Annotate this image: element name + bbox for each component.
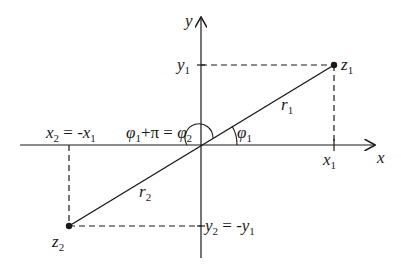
z1-label: z1: [340, 55, 353, 76]
r2-label: r2: [139, 182, 151, 203]
y1-label: y1: [175, 55, 190, 76]
complex-plane-diagram: x y z1 z2 x1 y1 r1 r2 φ1 x2 = -x1 y2 = -…: [0, 0, 401, 272]
phi-relation-label: φ1+π = φ2: [126, 123, 192, 144]
x-axis-label: x: [376, 148, 385, 167]
x1-label: x1: [322, 150, 336, 171]
x2-equation-label: x2 = -x1: [45, 123, 96, 144]
r1-label: r1: [281, 95, 293, 116]
y2-equation-label: y2 = -y1: [203, 216, 255, 237]
y-axis-label: y: [183, 11, 193, 30]
z2-label: z2: [51, 232, 64, 253]
phi1-label: φ1: [237, 123, 252, 144]
point-z1: [331, 62, 337, 68]
point-z2: [66, 223, 72, 229]
